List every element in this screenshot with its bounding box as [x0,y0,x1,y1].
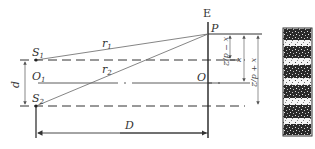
dim-x-minus-label: x − d/2 [222,37,231,66]
separation-d-label: d [9,81,22,88]
interference-fringe-pattern [283,28,312,136]
ray-r1-label: r1 [102,37,112,51]
double-slit-diagram: E D d S1 S2 O1 r1 r2 P O x − d/2 x x + d… [0,0,315,149]
point-p-label: P [210,22,219,35]
distance-d-label: D [124,119,134,132]
ray-r1 [36,34,208,60]
ray-r2 [36,34,208,106]
slit2-label: S2 [32,92,45,106]
dim-x-label: x [237,55,242,64]
screen-label: E [203,7,211,20]
slit1-label: S1 [32,46,44,60]
ray-r2-label: r2 [102,63,112,77]
origin-o1-label: O1 [32,70,46,84]
dim-x-plus-label: x + d/2 [250,58,259,87]
origin-o-label: O [197,71,206,84]
